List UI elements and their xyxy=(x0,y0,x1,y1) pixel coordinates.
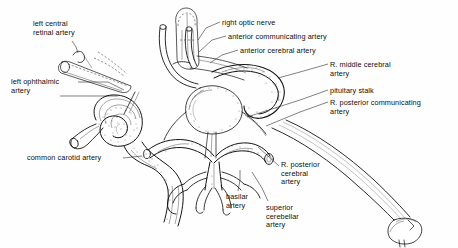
label-basilar-artery: basilar artery xyxy=(226,193,248,210)
left-optic-nerve-stub xyxy=(58,51,131,92)
label-r-posterior-cerebral-artery: R. posterior cerebral artery xyxy=(281,161,320,187)
label-pituitary-stalk: pituitary stalk xyxy=(330,87,374,96)
label-left-central-retinal-artery: left central retinal artery xyxy=(33,20,75,37)
label-superior-cerebellar-artery: superior cerebellar artery xyxy=(266,204,299,230)
left-carotid-siphon xyxy=(68,92,142,149)
anatomical-illustration: left central retinal artery right optic … xyxy=(0,0,458,248)
label-left-ophthalmic-artery: left ophthalmic artery xyxy=(11,78,59,95)
label-r-posterior-communicating-artery: R. posterior communicating artery xyxy=(330,99,421,116)
label-right-optic-nerve: right optic nerve xyxy=(222,19,275,28)
label-anterior-communicating-artery: anterior communicating artery xyxy=(228,33,327,42)
circle-of-willis xyxy=(159,25,284,158)
label-anterior-cerebral-artery: anterior cerebral artery xyxy=(240,47,316,56)
label-common-carotid-artery: common carotid artery xyxy=(27,154,101,163)
label-r-middle-cerebral-artery: R. middle cerebral artery xyxy=(330,61,391,78)
